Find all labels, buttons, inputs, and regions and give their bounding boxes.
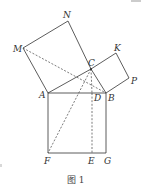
- segment-MN: [23, 21, 68, 48]
- label-D: D: [93, 93, 101, 103]
- label-M: M: [12, 44, 23, 54]
- figure-caption: 图 1: [67, 175, 85, 185]
- label-C: C: [88, 58, 95, 68]
- edge-artifact-left: [0, 164, 2, 167]
- segment-AM: [23, 48, 48, 93]
- segment-KP: [116, 53, 129, 78]
- label-G: G: [104, 156, 111, 166]
- label-B: B: [107, 93, 115, 103]
- segment-CD: [91, 69, 92, 93]
- label-K: K: [113, 43, 122, 53]
- label-P: P: [130, 76, 138, 86]
- edge-artifact-top-right: [131, 0, 141, 2]
- label-F: F: [43, 156, 51, 166]
- segment-BC: [91, 69, 106, 93]
- label-N: N: [62, 10, 72, 20]
- solid-lines: [23, 21, 129, 153]
- point-C-dot: [90, 68, 92, 70]
- geometry-figure: N M C K P A D B F E G 图 1: [0, 0, 149, 194]
- label-E: E: [87, 156, 95, 166]
- label-A: A: [38, 90, 46, 100]
- point-labels: N M C K P A D B F E G: [12, 10, 138, 166]
- segment-PB: [106, 78, 129, 93]
